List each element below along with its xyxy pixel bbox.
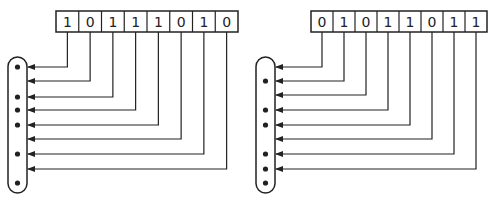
- bit-cell: 1: [340, 14, 349, 30]
- bit-arrow: [276, 32, 344, 81]
- set-bit-dot: [263, 122, 268, 127]
- right-register-diagram: 01011011: [256, 11, 487, 193]
- set-bit-dot: [263, 166, 268, 171]
- bit-arrow: [276, 32, 322, 67]
- bit-register-diagram: 10111010 01011011: [0, 0, 492, 199]
- bit-cell: 0: [428, 14, 437, 30]
- left-register-diagram: 10111010: [8, 11, 238, 193]
- bottom-dot: [263, 180, 268, 185]
- bit-cell: 1: [406, 14, 415, 30]
- bit-cell: 0: [177, 14, 186, 30]
- bit-cell: 1: [108, 14, 117, 30]
- bit-arrow: [276, 32, 432, 139]
- bit-cell: 1: [199, 14, 208, 30]
- bit-arrow: [28, 32, 158, 125]
- bit-cell: 1: [450, 14, 459, 30]
- set-bit-dot: [263, 151, 268, 156]
- set-bit-dot: [15, 151, 20, 156]
- set-bit-dot: [15, 64, 20, 69]
- bit-arrow: [276, 32, 366, 95]
- bit-arrow: [28, 32, 90, 81]
- bit-cell: 1: [384, 14, 393, 30]
- bit-cell: 1: [154, 14, 163, 30]
- bit-arrow: [276, 32, 410, 125]
- bit-cell: 1: [131, 14, 140, 30]
- bit-arrow: [28, 32, 204, 154]
- set-bit-dot: [15, 122, 20, 127]
- bit-cell: 0: [222, 14, 231, 30]
- bit-cell: 1: [63, 14, 72, 30]
- bit-arrow: [276, 32, 388, 110]
- set-bit-dot: [15, 107, 20, 112]
- bit-cell: 1: [472, 14, 481, 30]
- bit-arrow: [28, 32, 227, 169]
- set-bit-dot: [263, 78, 268, 83]
- bit-arrow: [276, 32, 476, 169]
- bit-arrow: [28, 32, 67, 67]
- set-bit-dot: [15, 94, 20, 99]
- bit-arrow: [28, 32, 136, 110]
- bit-cell: 0: [318, 14, 327, 30]
- bit-cell: 0: [362, 14, 371, 30]
- set-bit-dot: [263, 107, 268, 112]
- bit-cell: 0: [86, 14, 95, 30]
- bottom-dot: [15, 180, 20, 185]
- bit-arrow: [276, 32, 454, 154]
- bit-arrow: [28, 32, 113, 97]
